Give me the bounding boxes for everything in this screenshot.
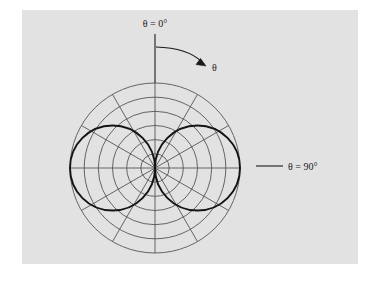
theta-ninety-label: θ = 90° [288,161,317,172]
annotation-theta-zero: θ = 0° [143,18,167,83]
annotation-theta-ninety: θ = 90° [256,161,317,172]
theta-zero-label: θ = 0° [143,18,167,29]
theta-direction-arc [156,47,202,62]
annotation-theta-direction: θ [156,47,217,73]
polar-plot: θ = 0° θ θ = 90° [0,0,374,283]
theta-direction-label: θ [212,62,217,73]
figure-root: θ = 0° θ θ = 90° [0,0,374,283]
theta-direction-arrowhead [196,59,206,67]
